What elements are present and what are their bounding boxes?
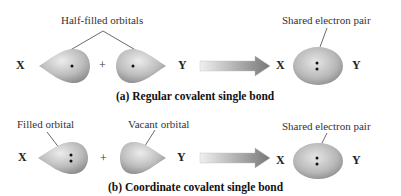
electron-pair-left-b-1 (70, 154, 73, 157)
orbital-left-a (39, 49, 90, 83)
leader-line-shared-a (320, 28, 327, 47)
bond-orbital-b (293, 143, 343, 179)
bond-orbital-a (293, 47, 343, 85)
plus-sign-a: + (99, 58, 106, 73)
product-atom-y-a: Y (352, 58, 361, 73)
electron-pair-b-2 (316, 163, 319, 166)
atom-x-a: X (16, 58, 25, 73)
atom-x-b: X (18, 150, 27, 165)
orbital-right-a (116, 49, 166, 83)
label-shared-electron-pair-b: Shared electron pair (282, 120, 371, 132)
reaction-arrow-b (200, 148, 270, 168)
electron-pair-b-1 (316, 157, 319, 160)
label-shared-electron-pair-a: Shared electron pair (282, 14, 371, 26)
electron-pair-a-2 (316, 68, 319, 71)
electron-pair-left-b-2 (70, 160, 73, 163)
label-vacant-orbital: Vacant orbital (128, 118, 189, 130)
label-half-filled-orbitals: Half-filled orbitals (61, 14, 143, 26)
caption-b: (b) Coordinate covalent single bond (108, 181, 283, 193)
reaction-arrow-a (200, 56, 270, 76)
product-atom-y-b: Y (352, 153, 361, 168)
caption-a: (a) Regular covalent single bond (116, 90, 274, 102)
product-atom-x-b: X (276, 153, 285, 168)
label-filled-orbital: Filled orbital (17, 118, 74, 130)
leader-lines-half-filled (67, 31, 139, 52)
orbital-right-b (120, 142, 166, 174)
electron-left-a (71, 65, 74, 68)
atom-y-a: Y (178, 58, 187, 73)
orbital-left-b (38, 142, 88, 174)
plus-sign-b: + (100, 151, 107, 166)
electron-right-a (132, 65, 135, 68)
electron-pair-a-1 (316, 62, 319, 65)
product-atom-x-a: X (276, 58, 285, 73)
atom-y-b: Y (177, 150, 186, 165)
